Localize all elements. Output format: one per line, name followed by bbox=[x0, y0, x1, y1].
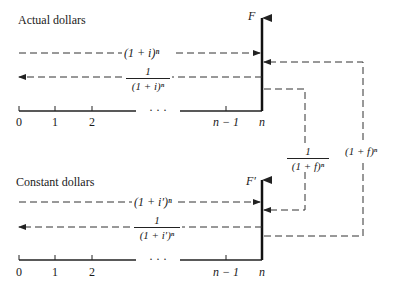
constant-to-actual-factor: (1 + f)ⁿ bbox=[343, 146, 379, 157]
tick-ellipsis: · · · bbox=[149, 253, 167, 265]
actual-dollars-title: Actual dollars bbox=[18, 14, 86, 26]
discount-denominator: (1 + i)ⁿ bbox=[126, 79, 170, 92]
discount-denominator: (1 + i′)ⁿ bbox=[134, 228, 180, 241]
tick-n-minus-1: n − 1 bbox=[213, 116, 239, 128]
discount-factor-actual: 1 (1 + i)ⁿ bbox=[124, 66, 172, 92]
actual-dollars-timeline bbox=[19, 18, 262, 111]
tick-1: 1 bbox=[52, 266, 58, 278]
forward-factor-constant: (1 + i′)ⁿ bbox=[132, 196, 174, 208]
conversion-denominator: (1 + f)ⁿ bbox=[287, 159, 329, 172]
discount-numerator: 1 bbox=[134, 215, 180, 228]
tick-2: 2 bbox=[89, 266, 95, 278]
forward-factor-actual: (1 + i)ⁿ bbox=[122, 47, 161, 59]
conversion-numerator: 1 bbox=[287, 146, 329, 159]
tick-n: n bbox=[259, 116, 265, 128]
tick-2: 2 bbox=[89, 116, 95, 128]
tick-n-minus-1: n − 1 bbox=[213, 266, 239, 278]
tick-0: 0 bbox=[16, 116, 22, 128]
constant-dollars-title: Constant dollars bbox=[16, 176, 94, 188]
axis-label-F-prime: F′ bbox=[246, 175, 256, 187]
axis-label-F: F bbox=[248, 10, 255, 22]
tick-ellipsis: · · · bbox=[149, 104, 167, 116]
tick-1: 1 bbox=[52, 116, 58, 128]
diagram-lines bbox=[0, 0, 395, 290]
discount-numerator: 1 bbox=[126, 66, 170, 79]
tick-0: 0 bbox=[16, 266, 22, 278]
actual-to-constant-factor: 1 (1 + f)ⁿ bbox=[285, 146, 331, 172]
discount-factor-constant: 1 (1 + i′)ⁿ bbox=[132, 215, 182, 241]
tick-n: n bbox=[259, 266, 265, 278]
